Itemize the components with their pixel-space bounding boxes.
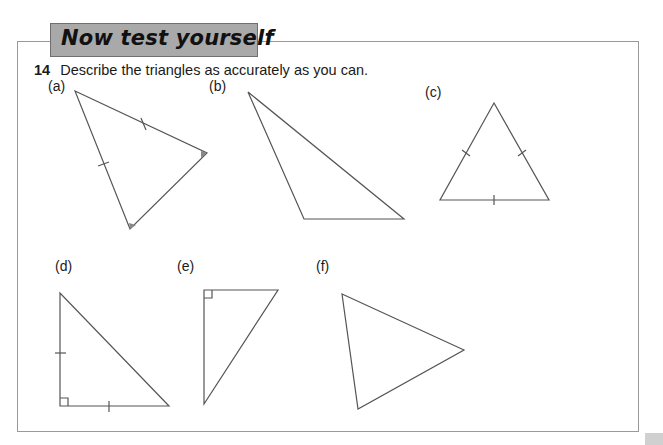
triangle-b	[248, 92, 404, 219]
triangle-c	[440, 103, 549, 205]
equal-side-tick	[518, 150, 526, 156]
triangle-a	[75, 91, 207, 229]
triangle-d	[55, 293, 169, 412]
triangle-f	[342, 294, 464, 409]
triangle-e	[204, 290, 278, 404]
page-corner-tab	[645, 433, 663, 445]
triangles-diagram	[0, 0, 663, 445]
right-angle-marker	[204, 290, 212, 298]
right-angle-marker	[60, 398, 68, 406]
equal-side-tick	[462, 150, 470, 156]
